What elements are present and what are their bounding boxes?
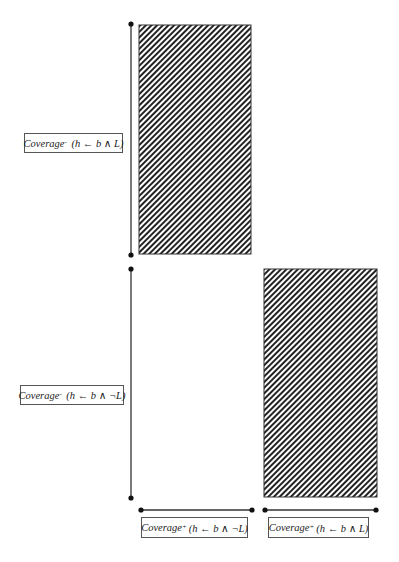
axis-endpoint-dot bbox=[373, 507, 378, 512]
top-hatched-region bbox=[139, 25, 251, 254]
axis-endpoint-dot bbox=[262, 507, 267, 512]
coverage-diagram bbox=[0, 0, 399, 562]
bottom-hatched-region bbox=[264, 269, 377, 497]
x-axis-right bbox=[262, 507, 378, 512]
x-axis-left-label: Coverage+(h ← b ∧ ¬L) bbox=[141, 517, 248, 538]
axis-endpoint-dot bbox=[128, 21, 133, 26]
axis-endpoint-dot bbox=[128, 252, 133, 257]
axis-endpoint-dot bbox=[138, 507, 143, 512]
axis-endpoint-dot bbox=[128, 266, 133, 271]
x-axis-right-label: Coverage+(h ← b ∧ L) bbox=[268, 517, 369, 538]
bottom-y-axis-label: Coverage- (h ← b ∧ ¬L) bbox=[20, 385, 124, 405]
x-axis-left bbox=[138, 507, 254, 512]
top-y-axis-label: Coverage- (h ← b ∧ L) bbox=[24, 133, 123, 153]
axis-endpoint-dot bbox=[128, 495, 133, 500]
axis-endpoint-dot bbox=[249, 507, 254, 512]
bottom-y-axis bbox=[128, 266, 133, 500]
top-y-axis bbox=[128, 21, 133, 257]
